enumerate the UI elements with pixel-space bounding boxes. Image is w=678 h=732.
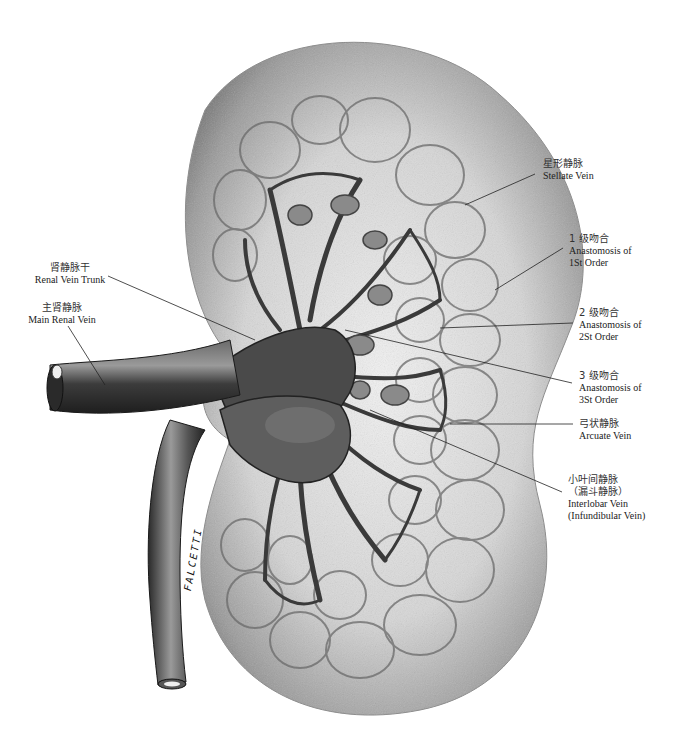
label-main-renal-vein-zh: 主肾静脉: [26, 302, 98, 314]
label-anastomosis-3-en-line2: 3St Order: [579, 394, 642, 406]
label-anastomosis-1-en-line2: 1St Order: [569, 257, 632, 269]
label-anastomosis-2-zh: 2 级吻合: [579, 307, 642, 319]
label-arcuate-vein: 弓状静脉 Arcuate Vein: [579, 418, 631, 442]
label-anastomosis-3-en-line1: Anastomosis of: [579, 382, 642, 394]
label-anastomosis-3-zh: 3 级吻合: [579, 370, 642, 382]
label-anastomosis-2st-order: 2 级吻合 Anastomosis of 2St Order: [579, 307, 642, 343]
label-interlobar-vein-en-line1: Interlobar Vein: [568, 498, 645, 510]
label-interlobar-vein-zh-line2: （漏斗静脉）: [568, 486, 645, 498]
label-renal-vein-trunk-zh: 肾静脉干: [34, 262, 106, 274]
label-main-renal-vein: 主肾静脉 Main Renal Vein: [26, 302, 98, 326]
label-interlobar-vein-en-line2: (Infundibular Vein): [568, 510, 645, 522]
label-interlobar-vein: 小叶间静脉 （漏斗静脉） Interlobar Vein (Infundibul…: [568, 474, 645, 522]
label-arcuate-vein-zh: 弓状静脉: [579, 418, 631, 430]
label-anastomosis-1-en-line1: Anastomosis of: [569, 245, 632, 257]
kidney-vein-illustration: [0, 0, 678, 732]
label-renal-vein-trunk-en: Renal Vein Trunk: [34, 274, 106, 286]
label-anastomosis-3st-order: 3 级吻合 Anastomosis of 3St Order: [579, 370, 642, 406]
label-anastomosis-1st-order: 1 级吻合 Anastomosis of 1St Order: [569, 233, 632, 269]
label-interlobar-vein-zh-line1: 小叶间静脉: [568, 474, 645, 486]
label-stellate-vein: 星形静脉 Stellate Vein: [543, 158, 594, 182]
label-anastomosis-2-en-line2: 2St Order: [579, 331, 642, 343]
label-renal-vein-trunk: 肾静脉干 Renal Vein Trunk: [34, 262, 106, 286]
label-arcuate-vein-en: Arcuate Vein: [579, 430, 631, 442]
label-stellate-vein-zh: 星形静脉: [543, 158, 594, 170]
label-main-renal-vein-en: Main Renal Vein: [26, 314, 98, 326]
label-anastomosis-1-zh: 1 级吻合: [569, 233, 632, 245]
label-stellate-vein-en: Stellate Vein: [543, 170, 594, 182]
label-anastomosis-2-en-line1: Anastomosis of: [579, 319, 642, 331]
